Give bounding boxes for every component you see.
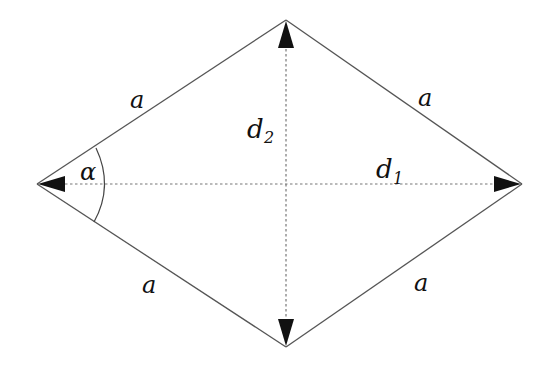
diagonal-label-d2: d 2 <box>247 114 274 147</box>
side-label-top-left: a <box>130 86 144 114</box>
svg-text:1: 1 <box>393 169 403 188</box>
angle-label: α <box>80 158 96 186</box>
arrow-left-icon <box>38 176 65 192</box>
arrow-bottom-icon <box>278 319 294 346</box>
arrow-top-icon <box>278 21 294 48</box>
svg-text:d: d <box>247 114 264 144</box>
svg-text:d: d <box>376 154 393 184</box>
side-label-top-right: a <box>418 84 432 112</box>
side-label-bottom-right: a <box>414 269 428 297</box>
svg-text:2: 2 <box>263 128 274 147</box>
rhombus-diagram: α a a a a d 2 d 1 <box>0 0 547 366</box>
edge-top-right <box>286 20 522 184</box>
rhombus-edges <box>37 20 522 347</box>
edge-top-left <box>37 20 286 184</box>
edge-bottom-left <box>37 184 286 347</box>
edge-bottom-right <box>286 184 522 347</box>
arrow-right-icon <box>494 176 521 192</box>
side-label-bottom-left: a <box>142 271 156 299</box>
diagonal-label-d1: d 1 <box>376 154 403 188</box>
diagonals <box>60 44 500 323</box>
